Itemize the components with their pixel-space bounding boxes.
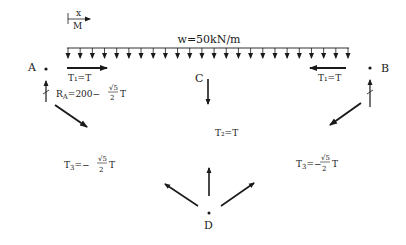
point-d: D [165, 168, 254, 232]
svg-text:T: T [332, 159, 338, 169]
t1-left-label: T₁=T [68, 73, 91, 83]
svg-text:T3=−: T3=− [64, 160, 90, 172]
t3-left-arrow [55, 105, 87, 127]
svg-text:T: T [109, 160, 115, 170]
svg-text:2: 2 [322, 165, 326, 173]
d-right-arrow [221, 183, 254, 206]
sign-x-label: x [76, 8, 81, 18]
t2-label: T₂=T [215, 128, 238, 138]
ra-label: RA=200− √5 2 T [56, 84, 126, 102]
node-c-label: C [195, 72, 203, 85]
svg-text:T: T [120, 89, 126, 99]
svg-text:√5: √5 [321, 154, 330, 162]
point-b: B [368, 62, 389, 75]
svg-text:√5: √5 [109, 84, 118, 92]
point-c: C [195, 72, 208, 104]
svg-text:T3=−: T3=− [296, 159, 322, 171]
node-b-dot [368, 66, 371, 69]
sign-convention: x M [68, 8, 90, 31]
t3-left-label: T3=− √5 2 T [64, 155, 115, 174]
svg-text:2: 2 [110, 94, 114, 102]
sign-m-label: M [73, 21, 82, 31]
node-b-label: B [381, 62, 389, 75]
d-left-arrow [165, 184, 198, 206]
truss-free-body-diagram: x M w=50kN/m A T₁=T RA=200− √5 2 T T3=− … [0, 0, 406, 245]
distributed-load: w=50kN/m [67, 33, 349, 58]
load-label: w=50kN/m [177, 33, 241, 46]
load-arrows [68, 48, 348, 58]
node-a-label: A [27, 61, 37, 74]
t3-right-arrow [330, 103, 361, 125]
svg-text:√5: √5 [98, 155, 107, 163]
svg-text:2: 2 [99, 166, 103, 174]
node-d-label: D [204, 219, 213, 232]
node-a-dot [44, 67, 47, 70]
node-d-dot [208, 212, 211, 215]
t1-right-label: T₁=T [318, 73, 341, 83]
svg-text:RA=200−: RA=200− [56, 89, 100, 101]
point-a: A [27, 61, 48, 74]
t3-right-label: T3=− √5 2 T [296, 154, 338, 173]
